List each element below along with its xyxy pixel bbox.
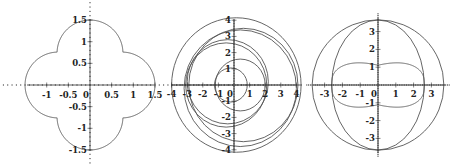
y-tick-label: -4	[222, 145, 232, 155]
y-tick-label: 4	[225, 15, 231, 25]
x-tick-label: 3	[278, 89, 284, 99]
plot-circles: -4-3-2-1012344321-1-2-3-4	[167, 15, 302, 155]
y-tick-label: 1	[225, 64, 231, 74]
x-tick-label: 2	[411, 89, 417, 99]
x-tick-label: -3	[182, 89, 192, 99]
y-tick-label: -2	[366, 116, 376, 126]
y-tick-label: 2	[369, 44, 375, 54]
x-tick-label: 1	[247, 89, 253, 99]
y-tick-label: 3	[225, 31, 231, 41]
x-tick-label: -1	[42, 90, 52, 100]
y-tick-label: -2	[222, 112, 232, 122]
x-tick-label: 1	[130, 90, 136, 100]
y-tick-label: -1	[222, 96, 232, 106]
x-tick-label: -3	[320, 89, 330, 99]
x-tick-label: -4	[167, 89, 177, 99]
y-tick-label: 1.5	[72, 15, 87, 25]
x-tick-label: 0.5	[104, 90, 119, 100]
x-tick-label: 1.5	[148, 90, 163, 100]
chart-area: -1-0.500.511.51.510.5-0.5-1-1.5 -4-3-2-1…	[0, 0, 467, 166]
x-tick-label: -2	[338, 89, 348, 99]
x-tick-label: -2	[198, 89, 208, 99]
x-tick-label: 3	[428, 89, 434, 99]
y-tick-label: 1	[369, 62, 375, 72]
y-tick-label: 1	[81, 37, 87, 47]
x-tick-label: -0.5	[59, 90, 77, 100]
x-tick-label: 1	[393, 89, 399, 99]
y-tick-label: 3	[369, 27, 375, 37]
y-tick-label: 0.5	[72, 58, 87, 68]
x-tick-label: 4	[293, 89, 299, 99]
x-tick-label: -1	[355, 89, 365, 99]
y-tick-label: -3	[222, 129, 232, 139]
plot-ellipses: -3-2-10123321-1-2-3	[307, 14, 449, 156]
y-tick-label: -1.5	[69, 145, 87, 155]
x-tick-label: 2	[262, 89, 268, 99]
x-tick-label: 0	[83, 90, 89, 100]
y-tick-label: -1	[78, 123, 88, 133]
y-tick-label: -1	[366, 98, 376, 108]
y-tick-label: -3	[366, 133, 376, 143]
y-tick-label: -0.5	[69, 102, 87, 112]
y-tick-label: 2	[225, 48, 231, 58]
plot-quatrefoil: -1-0.500.511.51.510.5-0.5-1-1.5	[0, 0, 263, 166]
